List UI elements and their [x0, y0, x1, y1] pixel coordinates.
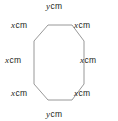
label-top-left-side: xcm — [11, 20, 27, 30]
label-top-left-unit: cm — [16, 20, 28, 30]
label-middle-right-side: xcm — [80, 55, 96, 65]
label-top-unit: cm — [51, 1, 63, 11]
label-top-side: ycm — [46, 1, 62, 11]
label-top-right-unit: cm — [79, 20, 91, 30]
label-middle-left-unit: cm — [10, 55, 22, 65]
label-bottom-left-unit: cm — [16, 88, 28, 98]
label-bottom-unit: cm — [51, 109, 63, 119]
label-bottom-side: ycm — [46, 109, 62, 119]
label-top-right-side: xcm — [74, 20, 90, 30]
label-bottom-right-unit: cm — [79, 88, 91, 98]
octagon-figure: ycm xcm xcm xcm xcm xcm xcm ycm — [0, 0, 118, 121]
label-bottom-left-side: xcm — [11, 88, 27, 98]
label-middle-right-unit: cm — [85, 55, 97, 65]
label-bottom-right-side: xcm — [74, 88, 90, 98]
label-middle-left-side: xcm — [5, 55, 21, 65]
